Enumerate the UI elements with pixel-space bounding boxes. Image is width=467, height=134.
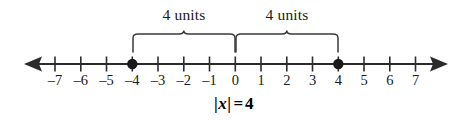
tick-label-neg2: –2: [171, 72, 197, 89]
brace-label-right: 4 units: [237, 6, 337, 24]
tick-label-pos3: 3: [300, 72, 326, 89]
tick-label-pos6: 6: [377, 72, 403, 89]
tick-label-pos7: 7: [403, 72, 429, 89]
tick-label-neg1: –1: [197, 72, 223, 89]
tick-label-pos2: 2: [274, 72, 300, 89]
tick-label-neg6: –6: [68, 72, 94, 89]
tick-label-zero: 0: [222, 72, 248, 89]
tick-label-neg5: –5: [94, 72, 120, 89]
tick-label-pos4: 4: [325, 72, 351, 89]
brace-right: [236, 31, 338, 53]
tick-label-pos1: 1: [248, 72, 274, 89]
equation-absolute-value: |x|=4: [0, 94, 467, 114]
point-marker-positive-four: [333, 59, 343, 69]
tick-label-neg7: –7: [42, 72, 68, 89]
tick-label-pos5: 5: [351, 72, 377, 89]
point-marker-negative-four: [127, 59, 137, 69]
equation-value: 4: [245, 94, 254, 113]
equation-variable: x: [218, 94, 227, 113]
tick-label-neg3: –3: [145, 72, 171, 89]
number-line-figure: 4 units 4 units –7 –6 –5 –4 –3 –2 –1 0 1…: [0, 0, 467, 134]
brace-left: [133, 31, 235, 53]
equation-relation: =: [231, 94, 245, 113]
brace-label-left: 4 units: [134, 6, 234, 24]
tick-label-neg4: –4: [119, 72, 145, 89]
